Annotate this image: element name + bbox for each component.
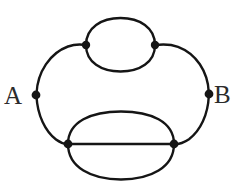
node-label-b: B xyxy=(214,81,231,108)
edge-c-d-lower xyxy=(86,45,155,72)
node-a-dot[interactable] xyxy=(32,91,41,100)
edge-b-f xyxy=(174,96,209,145)
graph-figure: A B xyxy=(0,0,245,183)
edge-group-bottom-triple xyxy=(68,112,174,180)
node-b-dot[interactable] xyxy=(205,90,214,99)
node-d-dot[interactable] xyxy=(151,41,159,49)
edge-c-d-upper xyxy=(86,18,155,45)
edge-group-outer-left xyxy=(37,45,87,145)
edge-e-f-lower xyxy=(68,144,174,180)
node-e-dot[interactable] xyxy=(64,140,73,149)
diagram-canvas: A B xyxy=(0,0,245,183)
node-group xyxy=(32,41,214,149)
node-label-a: A xyxy=(4,82,22,109)
edge-group-outer-right xyxy=(155,45,209,145)
node-f-dot[interactable] xyxy=(170,140,179,149)
node-c-dot[interactable] xyxy=(82,41,90,49)
edge-e-f-upper xyxy=(68,112,174,145)
edge-a-c xyxy=(37,45,87,94)
edge-group-top-double xyxy=(86,18,155,72)
edge-a-e xyxy=(37,97,69,145)
edge-b-d xyxy=(155,45,209,93)
